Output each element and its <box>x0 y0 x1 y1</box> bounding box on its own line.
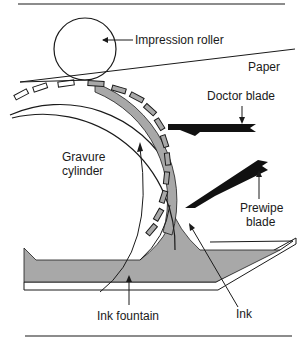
label-gravure: Gravure <box>62 150 106 164</box>
rotation-arrowhead-icon <box>137 142 143 152</box>
label-impression-roller: Impression roller <box>135 33 224 47</box>
doctor-blade <box>168 124 256 136</box>
label-blade: blade <box>246 215 276 229</box>
impression-roller <box>54 18 116 80</box>
arrowhead-icon <box>189 223 195 231</box>
label-ink: Ink <box>236 307 253 321</box>
arrowhead-icon <box>239 117 245 124</box>
label-cylinder: cylinder <box>62 164 103 178</box>
label-doctor-blade: Doctor blade <box>207 89 275 103</box>
label-ink-fountain: Ink fountain <box>97 309 159 323</box>
gravure-diagram: Impression roller Paper Doctor blade Gra… <box>0 0 306 338</box>
label-paper: Paper <box>248 60 280 74</box>
label-prewipe: Prewipe <box>240 201 284 215</box>
